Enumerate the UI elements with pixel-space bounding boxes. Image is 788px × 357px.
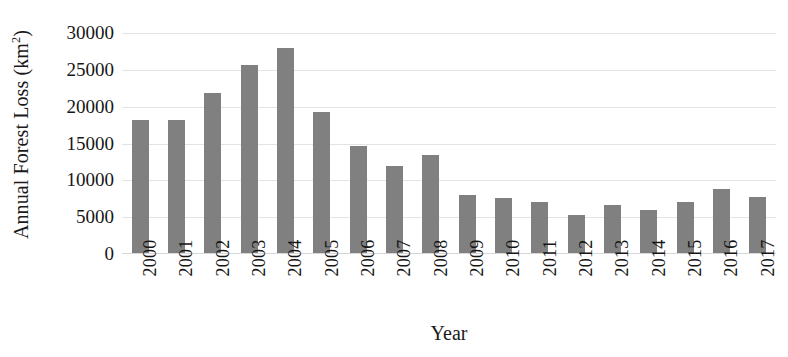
x-tick-slot: 2017: [740, 258, 776, 320]
y-axis-title-text: Annual Forest Loss (km2): [11, 29, 34, 238]
x-tick-slot: 2015: [667, 258, 703, 320]
y-tick-label: 25000: [67, 59, 115, 81]
y-axis-title-tail: ): [11, 29, 33, 36]
bar-slot: [522, 33, 558, 254]
x-tick-slot: 2003: [231, 258, 267, 320]
y-axis-title: Annual Forest Loss (km2): [0, 0, 44, 268]
bar-slot: [558, 33, 594, 254]
x-tick-slot: 2014: [631, 258, 667, 320]
bar-slot: [413, 33, 449, 254]
bar-slot: [631, 33, 667, 254]
x-tick-slot: 2002: [195, 258, 231, 320]
bar-slot: [449, 33, 485, 254]
y-tick-label: 20000: [67, 96, 115, 118]
bar-slot: [195, 33, 231, 254]
bar: [350, 146, 367, 254]
bar-slot: [667, 33, 703, 254]
bar-slot: [231, 33, 267, 254]
x-tick-slot: 2012: [558, 258, 594, 320]
x-axis-title: Year: [122, 322, 776, 345]
y-axis-title-superscript: 2: [10, 36, 24, 42]
x-tick-slot: 2011: [522, 258, 558, 320]
x-tick-slot: 2004: [267, 258, 303, 320]
y-tick-label: 5000: [76, 206, 114, 228]
bar: [204, 93, 221, 254]
x-tick-slot: 2007: [376, 258, 412, 320]
y-tick-label: 10000: [67, 169, 115, 191]
x-tick-slot: 2001: [158, 258, 194, 320]
bar-series: [122, 33, 776, 254]
bar-slot: [267, 33, 303, 254]
x-axis-tick-labels: 2000200120022003200420052006200720082009…: [122, 258, 776, 320]
x-tick-slot: 2009: [449, 258, 485, 320]
bar-slot: [485, 33, 521, 254]
bar: [132, 120, 149, 254]
y-tick-label: 30000: [67, 22, 115, 44]
x-tick-slot: 2008: [413, 258, 449, 320]
bar-slot: [340, 33, 376, 254]
x-tick-slot: 2016: [703, 258, 739, 320]
y-axis-tick-labels: 050001000015000200002500030000: [44, 0, 120, 268]
bar-slot: [594, 33, 630, 254]
x-tick-slot: 2000: [122, 258, 158, 320]
y-tick-label: 0: [105, 243, 115, 265]
bar: [241, 65, 258, 254]
bar: [277, 48, 294, 254]
x-tick-label: 2017: [758, 239, 779, 276]
bar-slot: [158, 33, 194, 254]
y-tick-label: 15000: [67, 133, 115, 155]
bar-slot: [740, 33, 776, 254]
y-axis-title-base: Annual Forest Loss (km: [11, 42, 33, 238]
x-tick-slot: 2006: [340, 258, 376, 320]
x-tick-slot: 2010: [485, 258, 521, 320]
bar: [168, 120, 185, 254]
bar: [313, 112, 330, 254]
plot-area: [122, 33, 776, 254]
x-tick-slot: 2013: [594, 258, 630, 320]
forest-loss-bar-chart: Annual Forest Loss (km2) 050001000015000…: [0, 0, 788, 357]
x-tick-slot: 2005: [304, 258, 340, 320]
bar-slot: [703, 33, 739, 254]
bar-slot: [376, 33, 412, 254]
bar-slot: [122, 33, 158, 254]
bar-slot: [304, 33, 340, 254]
